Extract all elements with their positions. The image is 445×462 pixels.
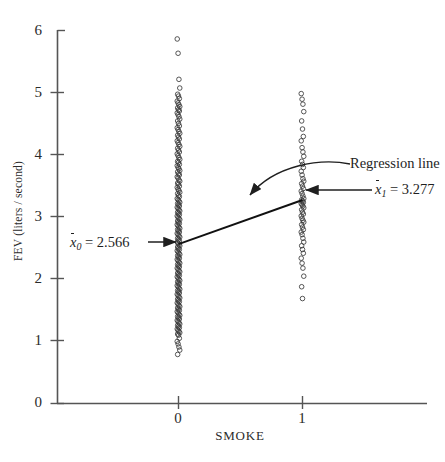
scatter-points-smoke-0 [175,37,182,357]
data-point [175,37,180,42]
x-axis-ticks [179,396,303,409]
data-point [177,77,182,82]
data-point [177,348,182,353]
data-point [299,91,304,96]
data-point [177,345,182,350]
data-point [300,97,305,102]
data-point [301,274,306,279]
data-point [301,154,306,159]
data-point [300,145,305,150]
data-point [175,352,180,357]
scatter-plot-figure: 6 5 4 3 2 1 0 0 1 FEV (liters / second) … [0,0,445,462]
regression-line [179,200,303,244]
plot-canvas [0,0,445,462]
data-point [176,51,181,56]
data-point [300,296,305,301]
data-point [299,256,304,261]
data-point [301,102,306,107]
data-point [300,261,305,266]
data-point [301,109,306,114]
data-point [299,139,304,144]
data-point [299,284,304,289]
data-point [301,134,306,139]
scatter-points-smoke-1 [299,91,306,301]
data-point [301,150,306,155]
data-point [177,86,182,91]
data-point [301,266,306,271]
data-point [299,119,304,124]
data-point [299,159,304,164]
data-point [300,127,305,132]
